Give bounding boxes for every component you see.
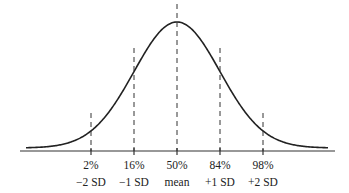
- sd-label-minus1: −1 SD: [119, 176, 149, 188]
- percent-label-plus2: 98%: [252, 159, 274, 171]
- sd-label-plus2: +2 SD: [248, 176, 278, 188]
- sd-marker-lines: [91, 4, 263, 151]
- percent-label-minus2: 2%: [83, 159, 99, 171]
- sd-label-plus1: +1 SD: [205, 176, 235, 188]
- sd-labels: −2 SD −1 SD mean +1 SD +2 SD: [76, 176, 278, 188]
- bell-curve-chart: 2% 16% 50% 84% 98% −2 SD −1 SD mean +1 S…: [0, 0, 349, 193]
- percent-label-plus1: 84%: [209, 159, 231, 171]
- percent-labels: 2% 16% 50% 84% 98%: [83, 159, 274, 171]
- sd-label-minus2: −2 SD: [76, 176, 106, 188]
- sd-label-mean: mean: [165, 176, 190, 188]
- percent-label-mean: 50%: [166, 159, 188, 171]
- percent-label-minus1: 16%: [123, 159, 145, 171]
